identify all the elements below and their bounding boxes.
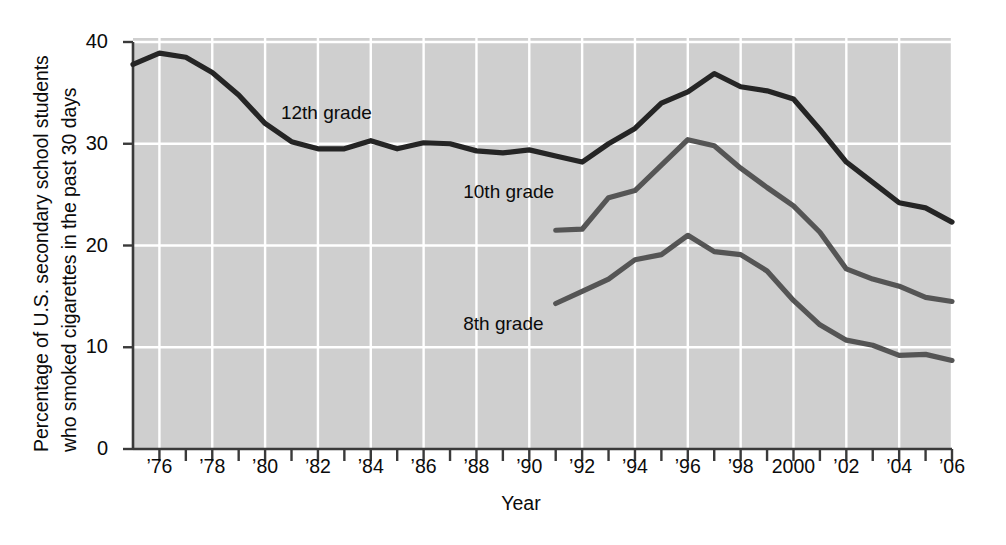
chart-figure: Percentage of U.S. secondary school stud… [0,0,1006,545]
series-annotations: 12th grade10th grade8th grade [0,0,1006,500]
series-label-10th-grade: 10th grade [463,181,554,203]
series-label-12th-grade: 12th grade [281,102,372,124]
series-label-8th-grade: 8th grade [463,313,543,335]
